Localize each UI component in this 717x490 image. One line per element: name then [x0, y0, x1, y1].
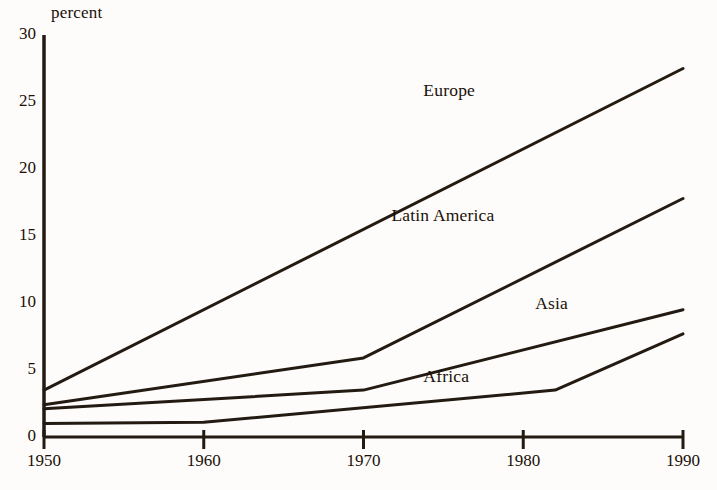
series-lines — [44, 69, 683, 424]
series-label-africa: Africa — [423, 366, 469, 387]
series-label-asia: Asia — [535, 293, 568, 314]
y-axis-tick-label: 20 — [2, 158, 36, 178]
y-axis-tick-label: 10 — [2, 292, 36, 312]
y-axis-tick-label: 25 — [2, 91, 36, 111]
series-line-europe — [44, 69, 683, 391]
series-label-europe: Europe — [423, 80, 475, 101]
x-axis-tick-label: 1980 — [488, 451, 558, 471]
x-axis-tick-label: 1990 — [648, 451, 717, 471]
y-axis-tick-label: 15 — [2, 225, 36, 245]
y-axis-tick-label: 0 — [2, 426, 36, 446]
y-axis-title: percent — [51, 3, 102, 23]
x-axis-tick-label: 1970 — [329, 451, 399, 471]
y-axis-tick-label: 30 — [2, 24, 36, 44]
line-chart: percent 051015202530 1950196019701980199… — [0, 0, 717, 490]
plot-area — [0, 0, 717, 490]
x-axis-tick-label: 1950 — [9, 451, 79, 471]
y-axis-tick-label: 5 — [2, 359, 36, 379]
x-axis-tick-label: 1960 — [169, 451, 239, 471]
series-line-africa — [44, 334, 683, 424]
chart-axes — [44, 35, 683, 449]
series-label-latin-america: Latin America — [391, 205, 494, 226]
